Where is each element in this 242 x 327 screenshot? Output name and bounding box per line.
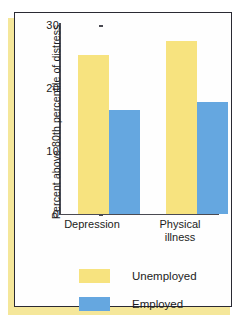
x-axis-label-depression: Depression [49, 218, 135, 231]
legend-swatch-unemployed [79, 269, 110, 283]
bar-depression-employed [109, 110, 140, 214]
chart-panel: 0 10 20 30 Percent above 80th percentile… [14, 12, 232, 307]
legend-item-unemployed: Unemployed [79, 265, 197, 286]
bar-physical-illness-employed [197, 102, 228, 214]
legend-swatch-employed [79, 297, 110, 311]
plot-area: 0 10 20 30 Percent above 80th percentile… [15, 13, 231, 306]
chart-legend: Unemployed Employed [79, 265, 197, 321]
bar-depression-unemployed [78, 55, 109, 214]
legend-label-employed: Employed [132, 298, 183, 310]
legend-item-employed: Employed [79, 293, 197, 314]
bar-physical-illness-unemployed [166, 41, 197, 214]
y-axis-title: Percent above 80th percentile of distres… [50, 29, 62, 219]
x-axis-label-line: illness [165, 231, 196, 243]
x-axis-label-line: Physical [160, 218, 201, 230]
legend-label-unemployed: Unemployed [132, 270, 197, 282]
x-axis-label-line: Depression [64, 218, 120, 230]
x-axis-label-physical-illness: Physicalillness [137, 218, 223, 243]
